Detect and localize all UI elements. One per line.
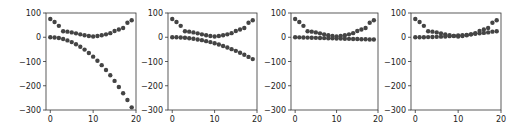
data-point (435, 35, 439, 39)
data-point (65, 29, 69, 33)
y-tick-label: 100 (26, 9, 41, 18)
data-point (443, 34, 447, 38)
data-point (305, 35, 309, 39)
series-lower (170, 35, 255, 61)
data-point (297, 35, 301, 39)
data-point (343, 37, 347, 41)
y-tick-label: 0 (281, 33, 286, 42)
y-tick-label: 0 (36, 33, 41, 42)
data-point (301, 24, 305, 28)
data-point (413, 17, 417, 21)
data-point (465, 33, 469, 37)
data-point (355, 37, 359, 41)
data-point (48, 17, 52, 21)
data-point (452, 34, 456, 38)
series-upper (48, 17, 134, 39)
data-point (70, 30, 74, 34)
data-point (125, 21, 129, 25)
y-tick-label: −300 (141, 106, 163, 115)
data-point (469, 32, 473, 36)
data-point (112, 29, 116, 33)
series-upper (170, 17, 255, 39)
data-point (78, 45, 82, 49)
data-point (305, 29, 309, 33)
data-point (91, 54, 95, 58)
data-point (82, 47, 86, 51)
data-point (187, 29, 191, 33)
data-point (174, 35, 178, 39)
data-point (422, 35, 426, 39)
subplot-1: 1000−100−200−30001020 (19, 9, 141, 124)
data-point (204, 39, 208, 43)
y-tick-label: 100 (148, 9, 163, 18)
data-point (238, 51, 242, 55)
x-tick-label: 0 (48, 115, 53, 124)
data-point (87, 51, 91, 55)
data-point (117, 85, 121, 89)
data-point (334, 36, 338, 40)
data-point (234, 29, 238, 33)
data-point (430, 35, 434, 39)
data-point (422, 24, 426, 28)
data-point (314, 36, 318, 40)
data-point (318, 36, 322, 40)
data-point (435, 30, 439, 34)
data-point (61, 29, 65, 33)
data-point (426, 35, 430, 39)
x-tick-label: 0 (413, 115, 418, 124)
data-point (473, 32, 477, 36)
series-lower (413, 29, 499, 39)
data-point (108, 73, 112, 77)
data-point (52, 20, 56, 24)
data-point (179, 24, 183, 28)
data-point (339, 36, 343, 40)
subplot-3: 1000−100−200−30001020 (264, 9, 383, 124)
data-point (183, 36, 187, 40)
x-tick-label: 0 (293, 115, 298, 124)
y-tick-label: 0 (158, 33, 163, 42)
data-point (242, 26, 246, 30)
subplot-4: 1000−100−200−30001020 (384, 9, 506, 124)
figure: 1000−100−200−300010201000−100−200−300010… (0, 0, 524, 128)
y-tick-label: −200 (19, 82, 41, 91)
data-point (212, 41, 216, 45)
data-point (368, 37, 372, 41)
x-tick-label: 10 (453, 115, 463, 124)
data-point (191, 30, 195, 34)
data-point (91, 34, 95, 38)
data-point (447, 34, 451, 38)
data-point (486, 26, 490, 30)
data-point (238, 27, 242, 31)
data-point (100, 63, 104, 67)
data-point (246, 21, 250, 25)
data-point (52, 35, 56, 39)
data-point (57, 24, 61, 28)
data-point (104, 32, 108, 36)
data-point (297, 20, 301, 24)
data-point (359, 27, 363, 31)
data-point (355, 29, 359, 33)
y-tick-label: −200 (264, 82, 286, 91)
data-point (70, 40, 74, 44)
x-tick-label: 0 (170, 115, 175, 124)
x-tick-label: 10 (88, 115, 98, 124)
data-point (310, 29, 314, 33)
data-point (229, 31, 233, 35)
data-point (251, 57, 255, 61)
data-point (95, 34, 99, 38)
data-point (225, 32, 229, 36)
x-tick-label: 20 (496, 115, 506, 124)
data-point (121, 26, 125, 30)
y-tick-label: −300 (264, 106, 286, 115)
data-point (82, 33, 86, 37)
x-tick-label: 10 (210, 115, 220, 124)
data-point (251, 18, 255, 22)
data-point (456, 33, 460, 37)
subplots-group: 1000−100−200−300010201000−100−200−300010… (19, 9, 506, 124)
data-point (225, 45, 229, 49)
data-point (170, 35, 174, 39)
data-point (482, 31, 486, 35)
data-point (372, 37, 376, 41)
data-point (477, 31, 481, 35)
data-point (204, 33, 208, 37)
